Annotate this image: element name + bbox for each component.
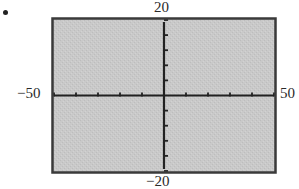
y-max-label: 20: [154, 0, 169, 15]
viewing-window-plot: [0, 0, 299, 189]
y-min-label: −20: [146, 174, 169, 189]
x-max-label: 50: [280, 86, 295, 101]
x-min-label: −50: [17, 86, 40, 101]
